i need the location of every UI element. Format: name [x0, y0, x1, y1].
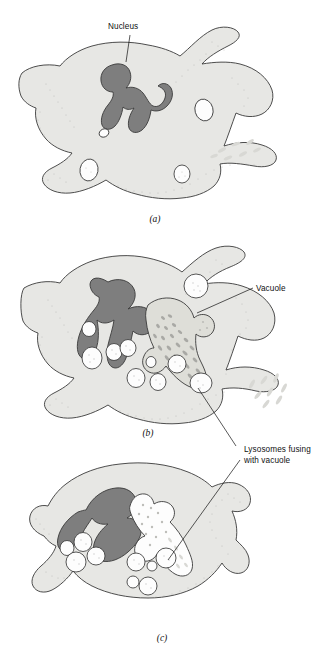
panel-c: (c): [30, 463, 251, 644]
caption-c: (c): [157, 633, 168, 644]
panel-a: Nucleus (a): [19, 22, 277, 225]
lysosome-b-1: [184, 274, 208, 298]
lysosome-b-5: [120, 340, 136, 357]
figure-canvas: Nucleus (a): [0, 0, 329, 650]
phagocytosis-figure: Nucleus (a): [0, 0, 329, 650]
lysosome-c-7: [156, 548, 176, 568]
label-lysosomes-fusing-line1: Lysosomes fusing: [244, 445, 311, 454]
lysosome-b-3: [82, 347, 102, 369]
vesicle-a-3: [174, 165, 190, 183]
lysosome-c-9: [139, 577, 157, 595]
lysosome-b-9: [168, 355, 186, 373]
panel-b: Vacuole (b): [21, 246, 288, 439]
lysosome-c-5: [127, 553, 145, 571]
lysosome-b-7: [127, 369, 145, 388]
lysosome-b-4: [106, 344, 122, 361]
caption-a: (a): [149, 214, 160, 225]
label-vacuole: Vacuole: [256, 284, 286, 293]
lysosome-b-6: [146, 357, 156, 368]
lysosome-c-3: [66, 552, 86, 572]
label-nucleus: Nucleus: [108, 22, 138, 31]
lysosome-b-10: [190, 373, 212, 393]
lysosome-b-2: [82, 322, 96, 337]
lysosome-c-2: [74, 533, 92, 552]
caption-b: (b): [142, 428, 153, 439]
lysosome-c-6: [147, 561, 157, 571]
lysosome-c-4: [87, 547, 105, 565]
lysosome-c-8: [127, 576, 139, 588]
lysosome-b-8: [150, 374, 166, 391]
label-lysosomes-fusing-line2: with vacuole: [243, 456, 291, 465]
